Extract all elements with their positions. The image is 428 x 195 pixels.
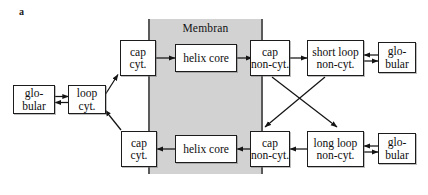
protein-topology-diagram: a Membran <box>0 0 428 195</box>
node-cap-non-cyt-top-line1: cap <box>262 46 278 58</box>
node-helix-core-top[interactable]: helix core <box>175 44 237 72</box>
node-helix-core-bottom[interactable]: helix core <box>175 135 237 163</box>
node-cap-non-cyt-top-line2: non-cyt. <box>251 58 289 70</box>
node-globular-bottom-right[interactable]: glo- bular <box>378 133 416 164</box>
node-loop-cyt-line2: cyt. <box>79 100 96 112</box>
node-cap-cyt-top[interactable]: cap cyt. <box>120 40 156 76</box>
node-cap-non-cyt-top[interactable]: cap non-cyt. <box>250 40 290 76</box>
node-helix-core-bottom-line1: helix core <box>183 143 229 155</box>
node-cap-cyt-bottom-line2: cyt. <box>131 149 148 161</box>
edge-loop-cyt-to-cap-cyt-top <box>105 75 118 96</box>
node-globular-left-line2: bular <box>22 100 46 112</box>
node-globular-top-right[interactable]: glo- bular <box>378 42 416 73</box>
edge-short-loop-to-cap-non-cyt-bottom <box>265 77 325 127</box>
node-cap-non-cyt-bottom-line1: cap <box>262 137 278 149</box>
node-short-loop-non-cyt-line1: short loop <box>312 46 358 58</box>
node-globular-bottom-right-line2: bular <box>385 149 409 161</box>
node-short-loop-non-cyt[interactable]: short loop non-cyt. <box>307 40 364 76</box>
membrane-label: Membran <box>148 21 263 35</box>
node-short-loop-non-cyt-line2: non-cyt. <box>316 58 354 70</box>
node-globular-top-right-line1: glo- <box>388 45 407 57</box>
node-loop-cyt-line1: loop <box>77 87 97 99</box>
node-globular-top-right-line2: bular <box>385 58 409 70</box>
node-cap-non-cyt-bottom-line2: non-cyt. <box>251 149 289 161</box>
node-helix-core-top-line1: helix core <box>183 52 229 64</box>
node-long-loop-non-cyt[interactable]: long loop non-cyt. <box>307 131 364 167</box>
panel-label-a: a <box>19 6 24 18</box>
node-long-loop-non-cyt-line1: long loop <box>314 137 358 149</box>
node-loop-cyt[interactable]: loop cyt. <box>68 85 106 114</box>
node-globular-bottom-right-line1: glo- <box>388 136 407 148</box>
node-cap-cyt-top-line1: cap <box>130 46 146 58</box>
node-globular-left-line1: glo- <box>25 87 44 99</box>
node-long-loop-non-cyt-line2: non-cyt. <box>316 149 354 161</box>
edge-cap-non-cyt-top-to-long-loop <box>272 77 337 127</box>
edge-cap-cyt-bottom-to-loop-cyt <box>105 110 121 130</box>
node-globular-left[interactable]: glo- bular <box>13 85 55 114</box>
node-cap-cyt-bottom-line1: cap <box>131 137 147 149</box>
node-cap-cyt-top-line2: cyt. <box>130 58 147 70</box>
node-cap-cyt-bottom[interactable]: cap cyt. <box>121 131 157 167</box>
node-cap-non-cyt-bottom[interactable]: cap non-cyt. <box>250 131 290 167</box>
